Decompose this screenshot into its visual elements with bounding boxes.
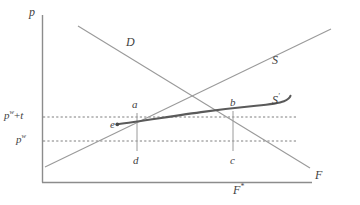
pw-superscript: w <box>22 132 27 139</box>
x-axis-label: F <box>315 169 322 181</box>
diagram-canvas <box>0 0 360 205</box>
x-axis-quantity-marker: F* <box>233 184 244 196</box>
price-label-pw: pw <box>16 134 26 145</box>
pw-plus-t-tariff: t <box>20 109 23 121</box>
point-label-c: c <box>230 155 235 166</box>
foreign-supply-curve-label: S' <box>272 94 280 106</box>
demand-curve-label: D <box>126 36 135 48</box>
f-star-superscript: * <box>240 182 244 191</box>
foreign-supply-curve <box>118 96 291 124</box>
point-label-d: d <box>133 155 139 166</box>
tariff-diagram: p F F* pw+t pw D S S' a b c d e <box>0 0 360 205</box>
price-label-pw-plus-t: pw+t <box>4 110 23 121</box>
y-axis-label: p <box>29 6 35 18</box>
point-label-a: a <box>132 99 138 110</box>
point-label-e: e <box>110 119 115 130</box>
point-label-b: b <box>230 97 236 108</box>
point-e-marker <box>115 122 119 126</box>
s-prime-tick: ' <box>278 92 280 101</box>
price-level-lines <box>43 117 296 141</box>
supply-curve-label: S <box>272 54 278 66</box>
